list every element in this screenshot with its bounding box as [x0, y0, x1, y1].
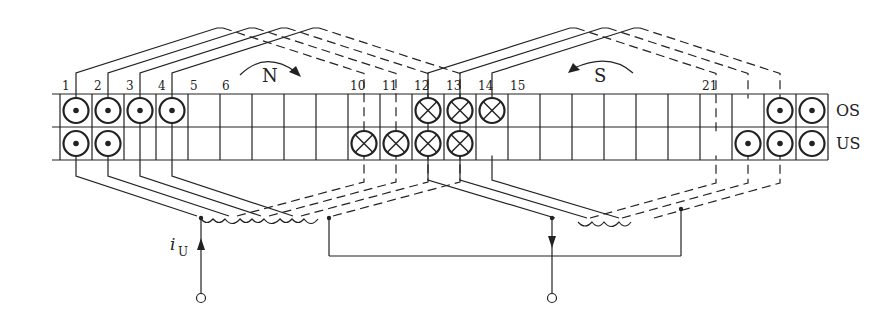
conductor-out-icon — [736, 131, 761, 156]
slot-number: 21 — [702, 79, 717, 93]
layer-label-bottom: US — [836, 134, 860, 153]
pole-label-s: S — [594, 65, 606, 86]
conductor-out-icon — [800, 131, 825, 156]
winding-diagram: 12345610111213141521 OS US N S i U — [0, 0, 873, 331]
slot-number: 11 — [382, 79, 397, 93]
slot-number: 5 — [190, 79, 198, 93]
conductor-out-icon — [64, 131, 89, 156]
conductor-out-icon — [160, 98, 185, 123]
slot-number: 13 — [446, 79, 461, 93]
conductor-in-icon — [448, 98, 473, 123]
slot-number: 10 — [350, 79, 365, 93]
slot-number: 2 — [94, 79, 102, 93]
conductor-in-icon — [384, 131, 409, 156]
current-arrow-down-icon — [548, 236, 556, 248]
slot-number: 15 — [510, 79, 525, 93]
conductor-out-icon — [128, 98, 153, 123]
conductor-out-icon — [768, 131, 793, 156]
conductor-out-icon — [768, 98, 793, 123]
current-arrow-up-icon — [197, 238, 205, 250]
slot-number: 1 — [62, 79, 70, 93]
pole-n: N — [240, 62, 301, 86]
conductor-out-icon — [96, 131, 121, 156]
slot-number: 12 — [414, 79, 429, 93]
pole-label-n: N — [262, 65, 278, 86]
terminal-connections — [201, 209, 681, 297]
slot-number: 14 — [478, 79, 494, 93]
slot-number: 3 — [126, 79, 134, 93]
arrowhead-icon — [289, 66, 301, 77]
pole-s: S — [568, 61, 633, 86]
conductor-in-icon — [416, 98, 441, 123]
conductor-in-icon — [448, 131, 473, 156]
terminal-end — [548, 294, 557, 303]
conductor-out-icon — [800, 98, 825, 123]
slot-number: 6 — [222, 79, 230, 93]
slot-number: 4 — [158, 79, 166, 93]
conductor-in-icon — [352, 131, 377, 156]
conductor-out-icon — [96, 98, 121, 123]
conductor-in-icon — [480, 98, 505, 123]
current-subscript: U — [178, 245, 188, 259]
slot-numbers: 12345610111213141521 — [62, 79, 717, 93]
terminal-start — [197, 294, 206, 303]
conductor-out-icon — [64, 98, 89, 123]
current-label: i U — [170, 234, 188, 259]
conductor-in-icon — [416, 131, 441, 156]
arrowhead-icon — [568, 63, 580, 73]
layer-label-top: OS — [836, 101, 860, 120]
current-symbol: i — [170, 234, 175, 254]
